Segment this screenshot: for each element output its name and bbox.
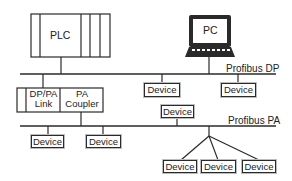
dp-device-2: Device xyxy=(221,83,256,97)
profibus-network-diagram: PLC PC Profibus DP Profibus PA DP/PA Lin… xyxy=(0,0,292,181)
dp-device-1: Device xyxy=(144,83,180,97)
pa-device-1: Device xyxy=(31,135,64,148)
pa-branch-device-1: Device xyxy=(163,160,197,173)
pa-coupler-line2: Coupler xyxy=(61,99,103,109)
plc-label: PLC xyxy=(50,30,70,41)
pc-computer-icon xyxy=(185,15,235,57)
pc-label: PC xyxy=(203,25,218,36)
profibus-dp-label: Profibus DP xyxy=(226,63,279,74)
pa-branch-device-3: Device xyxy=(242,160,276,173)
pa-device-2: Device xyxy=(86,135,121,148)
profibus-pa-label: Profibus PA xyxy=(228,115,280,126)
pa-branch-device-2: Device xyxy=(201,160,236,173)
plc-rack-outline xyxy=(31,14,110,57)
dp-pa-link-line2: Link xyxy=(27,99,60,109)
pa-device-above: Device xyxy=(161,105,194,118)
dp-pa-link-label: DP/PA Link xyxy=(27,89,60,109)
pa-coupler-label: PA Coupler xyxy=(61,89,103,109)
